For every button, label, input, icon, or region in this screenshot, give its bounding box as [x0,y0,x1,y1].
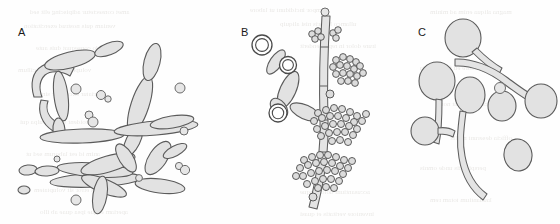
budding-yeast [54,156,60,162]
elongate-cell [51,70,71,121]
budding-yeast [180,127,188,135]
panel-label-c: C [418,27,426,38]
budding-yeast [71,84,81,94]
blastospore [19,164,38,176]
budding-yeast [105,96,111,102]
blastoconidia-cluster [311,105,370,146]
elongate-cell [93,38,125,60]
budding-yeast [136,175,143,182]
round-yeast [419,62,455,100]
blastospore [35,165,59,176]
chlamydospore-ring [269,104,287,122]
panel-c-artwork [411,19,557,200]
round-yeast [488,91,516,121]
budding-yeast [71,195,81,205]
hypha-apex [321,8,329,16]
round-yeast [502,137,534,173]
blastoconidium [326,90,334,98]
panel-b-artwork [252,8,370,209]
blastoconidia-cluster [330,54,367,87]
germ-tube [457,111,487,200]
budding-yeast [180,165,189,174]
figure-container: amet consectetur adipiscing elit sedtemp… [0,0,560,224]
blastospore [18,186,30,194]
blastoconidium [309,193,317,201]
elongate-cell [140,42,165,83]
panel-a-artwork [18,38,198,215]
figure-artwork [0,0,560,224]
round-yeast [455,77,485,113]
budding-yeast [97,91,106,100]
budding-yeast [175,83,185,93]
chlamydospore-ring [252,35,272,55]
budding-yeast [88,117,98,127]
bud [495,83,506,94]
round-yeast [525,84,557,118]
panel-label-a: A [18,27,26,38]
round-yeast [411,117,439,145]
chlamydospore-ring [280,57,297,74]
panel-label-b: B [241,27,249,38]
